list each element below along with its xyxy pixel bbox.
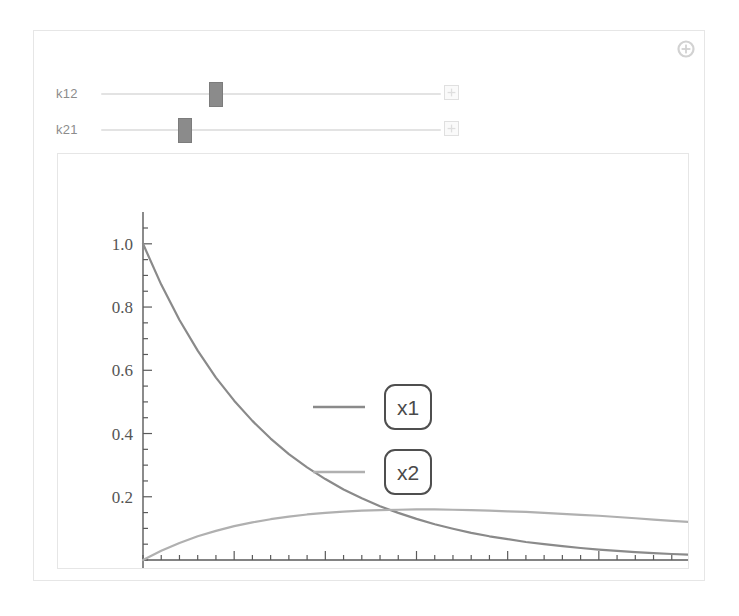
slider-track-k21 bbox=[101, 129, 441, 131]
slider-k21[interactable] bbox=[101, 121, 441, 139]
plot-frame: 510152025300.20.40.60.81.0 x1x2 bbox=[57, 153, 689, 569]
svg-text:0.6: 0.6 bbox=[112, 361, 133, 380]
svg-text:1.0: 1.0 bbox=[112, 235, 133, 254]
plot-legend: x1x2 bbox=[313, 385, 431, 494]
slider-k12[interactable] bbox=[101, 85, 441, 103]
controls-area: k12 k21 bbox=[34, 57, 704, 141]
slider-stepper-k21[interactable] bbox=[444, 121, 459, 136]
circled-plus-icon bbox=[676, 39, 696, 59]
slider-track-k12 bbox=[101, 93, 441, 95]
svg-text:0.8: 0.8 bbox=[112, 298, 133, 317]
slider-label-k21: k21 bbox=[56, 123, 98, 137]
manipulate-panel: k12 k21 bbox=[33, 30, 705, 581]
line-plot: 510152025300.20.40.60.81.0 x1x2 bbox=[58, 154, 688, 568]
slider-row-k21: k21 bbox=[56, 121, 476, 151]
svg-text:0.4: 0.4 bbox=[112, 425, 134, 444]
slider-handle-k21[interactable] bbox=[178, 118, 192, 143]
panel-plus-button[interactable] bbox=[676, 39, 696, 59]
slider-label-k12: k12 bbox=[56, 87, 98, 101]
svg-text:x1: x1 bbox=[397, 396, 419, 419]
slider-handle-k12[interactable] bbox=[209, 82, 223, 107]
slider-stepper-k12[interactable] bbox=[444, 85, 459, 100]
slider-row-k12: k12 bbox=[56, 85, 476, 115]
svg-text:x2: x2 bbox=[397, 461, 419, 484]
stepper-plus-icon bbox=[445, 122, 458, 135]
stepper-plus-icon bbox=[445, 86, 458, 99]
svg-text:0.2: 0.2 bbox=[112, 488, 133, 507]
